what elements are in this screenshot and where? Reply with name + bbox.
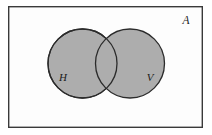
set-h-label: H [58, 71, 68, 83]
venn-diagram-container: A H V [0, 0, 212, 135]
venn-diagram-canvas: A H V [0, 0, 212, 135]
set-v-circle [96, 29, 165, 98]
universal-set-label: A [181, 14, 190, 26]
